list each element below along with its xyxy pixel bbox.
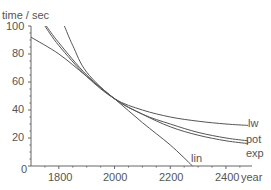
x-tick-2000: 2000 xyxy=(103,171,127,183)
curves xyxy=(31,26,248,166)
y-tick-0: 0 xyxy=(21,163,27,175)
series-label-pot: pot xyxy=(246,133,261,145)
y-tick-60: 60 xyxy=(12,75,24,87)
y-tick-80: 80 xyxy=(12,47,24,59)
y-tick-40: 40 xyxy=(12,103,24,115)
x-tick-2200: 2200 xyxy=(159,171,183,183)
line-chart: time / sec 100 80 60 40 20 0 1800 2000 2… xyxy=(0,0,271,190)
y-tick-20: 20 xyxy=(12,131,24,143)
y-tick-100: 100 xyxy=(6,20,24,32)
curve-exp xyxy=(64,26,248,144)
x-tick-1800: 1800 xyxy=(48,171,72,183)
x-tick-2400: 2400 xyxy=(215,171,239,183)
x-axis-label: year xyxy=(241,171,263,183)
curve-lin xyxy=(31,37,193,166)
series-label-lw: lw xyxy=(248,117,258,129)
series-label-lin: lin xyxy=(191,152,202,164)
series-label-exp: exp xyxy=(246,147,264,159)
curve-lw xyxy=(45,26,248,125)
